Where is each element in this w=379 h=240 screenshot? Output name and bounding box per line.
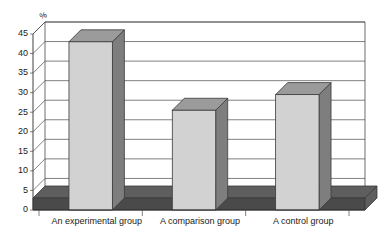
y-tick-connector (33, 139, 45, 151)
y-tick-connector (33, 100, 45, 112)
y-tick-label: 40 (18, 48, 28, 58)
y-tick-connector (33, 22, 45, 34)
y-tick-connector (33, 159, 45, 171)
y-tick-connector (33, 81, 45, 93)
bar-side-face (112, 30, 124, 210)
y-tick-label: 10 (18, 165, 28, 175)
bar-chart-3d: 051015202530354045 % An experimental gro… (0, 0, 379, 240)
category-labels: An experimental groupA comparison groupA… (51, 216, 333, 226)
y-tick-label: 0 (23, 204, 28, 214)
bar-series (69, 30, 331, 210)
y-axis-unit-label: % (38, 10, 48, 21)
bar-front-face (172, 110, 215, 210)
category-label: A comparison group (160, 216, 240, 226)
bar-side-face (216, 98, 228, 210)
bar (276, 83, 331, 210)
y-tick-label: 45 (18, 28, 28, 38)
category-label: A control group (273, 216, 334, 226)
y-tick-label: 25 (18, 107, 28, 117)
y-tick-label: 20 (18, 126, 28, 136)
y-tick-connector (33, 120, 45, 132)
bar (69, 30, 124, 210)
y-axis: 051015202530354045 (18, 22, 45, 214)
bar-front-face (276, 95, 319, 210)
y-tick-connector (33, 61, 45, 73)
y-tick-label: 15 (18, 146, 28, 156)
category-label: An experimental group (51, 216, 142, 226)
y-tick-label: 35 (18, 67, 28, 77)
bar-side-face (319, 83, 331, 210)
y-tick-label: 30 (18, 87, 28, 97)
chart-container: 051015202530354045 % An experimental gro… (0, 0, 379, 240)
y-tick-connector (33, 42, 45, 54)
bar-front-face (69, 42, 112, 210)
bar (172, 98, 227, 210)
y-tick-label: 5 (23, 185, 28, 195)
category-ticks (39, 210, 349, 216)
